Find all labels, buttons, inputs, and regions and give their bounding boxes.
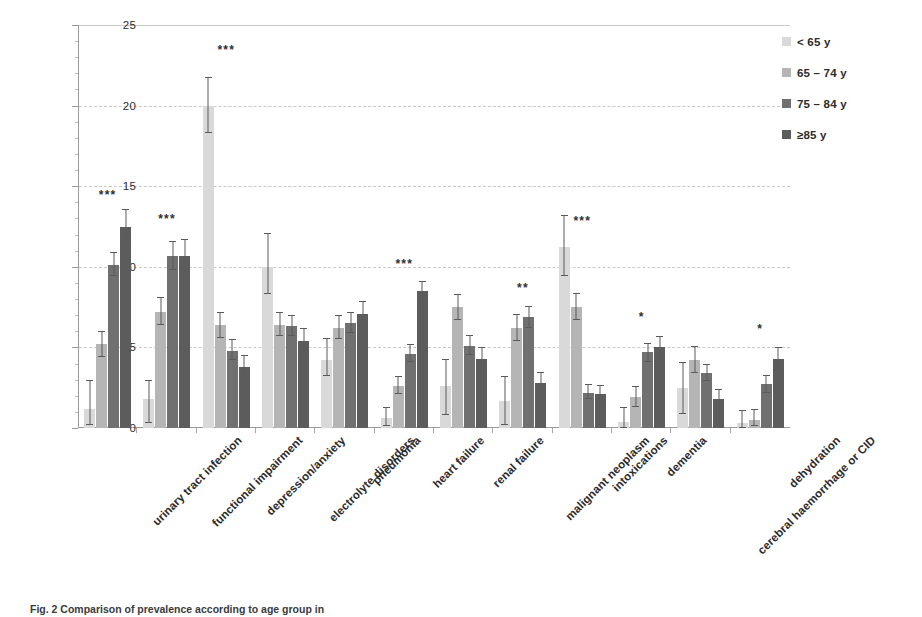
bar-column[interactable]	[179, 25, 190, 428]
error-bar-cap-top	[395, 376, 402, 377]
bar-column[interactable]	[155, 25, 166, 428]
legend-item[interactable]: 75 – 84 y	[782, 88, 917, 119]
error-bar-cap-bottom	[205, 132, 212, 133]
bar[interactable]	[155, 312, 166, 428]
bar-column[interactable]	[476, 25, 487, 428]
bar[interactable]	[642, 352, 653, 428]
bar[interactable]	[571, 307, 582, 428]
error-bar-cap-top	[466, 335, 473, 336]
bar[interactable]	[417, 291, 428, 428]
bar[interactable]	[464, 346, 475, 428]
bar[interactable]	[511, 328, 522, 428]
bar-column[interactable]	[511, 25, 522, 428]
bar-column[interactable]	[440, 25, 451, 428]
error-bar-cap-bottom	[169, 269, 176, 270]
bar[interactable]	[274, 325, 285, 428]
bar-column[interactable]	[108, 25, 119, 428]
error-bar	[125, 209, 126, 243]
error-bar-cap-top	[703, 364, 710, 365]
error-bar	[172, 241, 173, 270]
error-bar-cap-bottom	[442, 414, 449, 415]
bar-column[interactable]	[120, 25, 131, 428]
legend-item[interactable]: 65 – 74 y	[782, 57, 917, 88]
bar[interactable]	[333, 328, 344, 428]
bar-column[interactable]	[143, 25, 154, 428]
bar[interactable]	[179, 256, 190, 428]
bar[interactable]	[167, 256, 178, 428]
bar[interactable]	[286, 326, 297, 428]
bar[interactable]	[203, 106, 214, 428]
bar-column[interactable]	[203, 25, 214, 428]
bar[interactable]	[120, 227, 131, 429]
bar-column[interactable]	[215, 25, 226, 428]
error-bar-cap-bottom	[300, 353, 307, 354]
error-bar	[410, 344, 411, 362]
bar-column[interactable]	[535, 25, 546, 428]
bar[interactable]	[345, 323, 356, 428]
error-bar-cap-bottom	[763, 392, 770, 393]
error-bar-cap-top	[597, 385, 604, 386]
bar-column[interactable]	[321, 25, 332, 428]
bar[interactable]	[523, 317, 534, 428]
bar-column[interactable]	[642, 25, 653, 428]
bar-column[interactable]	[595, 25, 606, 428]
bar[interactable]	[227, 351, 238, 428]
bar-column[interactable]	[618, 25, 629, 428]
bar-column[interactable]	[274, 25, 285, 428]
legend-item[interactable]: < 65 y	[782, 26, 917, 57]
bar-column[interactable]	[393, 25, 404, 428]
bar-column[interactable]	[464, 25, 475, 428]
bar-column[interactable]	[499, 25, 510, 428]
bar-column[interactable]	[737, 25, 748, 428]
bar-column[interactable]	[417, 25, 428, 428]
significance-marker: ***	[99, 189, 117, 201]
bar-column[interactable]	[654, 25, 665, 428]
bar[interactable]	[357, 314, 368, 428]
bar[interactable]	[298, 341, 309, 428]
bar-column[interactable]	[286, 25, 297, 428]
error-bar	[778, 347, 779, 370]
error-bar-cap-bottom	[276, 335, 283, 336]
bar-column[interactable]	[345, 25, 356, 428]
error-bar-cap-top	[122, 209, 129, 210]
bar-column[interactable]	[630, 25, 641, 428]
bar[interactable]	[405, 354, 416, 428]
bar[interactable]	[654, 347, 665, 428]
error-bar	[469, 335, 470, 356]
bar-column[interactable]	[523, 25, 534, 428]
error-bar-cap-top	[573, 293, 580, 294]
bar-column[interactable]	[452, 25, 463, 428]
bar-column[interactable]	[262, 25, 273, 428]
error-bar-cap-bottom	[703, 380, 710, 381]
bar-column[interactable]	[357, 25, 368, 428]
error-bar-cap-bottom	[395, 393, 402, 394]
bar-column[interactable]	[333, 25, 344, 428]
bar-column[interactable]	[749, 25, 760, 428]
bar-column[interactable]	[559, 25, 570, 428]
bar-column[interactable]	[689, 25, 700, 428]
bar-column[interactable]	[713, 25, 724, 428]
legend-item[interactable]: ≥85 y	[782, 119, 917, 150]
bar-column[interactable]	[381, 25, 392, 428]
bar-column[interactable]	[239, 25, 250, 428]
bar-column[interactable]	[701, 25, 712, 428]
bar-column[interactable]	[227, 25, 238, 428]
legend-swatch-icon	[782, 37, 791, 46]
bar[interactable]	[701, 373, 712, 428]
bar-column[interactable]	[677, 25, 688, 428]
bar-column[interactable]	[84, 25, 95, 428]
error-bar	[220, 312, 221, 338]
bar-column[interactable]	[405, 25, 416, 428]
bar[interactable]	[452, 307, 463, 428]
error-bar-cap-top	[739, 410, 746, 411]
error-bar-cap-top	[620, 407, 627, 408]
error-bar	[528, 306, 529, 329]
bar-column[interactable]	[298, 25, 309, 428]
bar[interactable]	[108, 265, 119, 428]
bar-column[interactable]	[761, 25, 772, 428]
bar-column[interactable]	[167, 25, 178, 428]
bar[interactable]	[215, 325, 226, 428]
bar-group	[434, 25, 493, 428]
error-bar-cap-bottom	[383, 425, 390, 426]
bar-column[interactable]	[96, 25, 107, 428]
